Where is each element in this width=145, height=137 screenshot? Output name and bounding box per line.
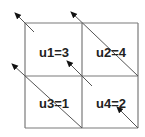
- cell-label-u3: u3=1: [39, 96, 69, 111]
- cell-label-u4: u4=2: [96, 96, 126, 111]
- cell-label-u2: u2=4: [96, 45, 127, 60]
- grid-diagram: u1=3u2=4u3=1u4=2: [0, 0, 145, 137]
- cell-labels: u1=3u2=4u3=1u4=2: [39, 45, 127, 111]
- arrow-into-u1-icon: [67, 61, 92, 86]
- arrow-through-u2-icon: [71, 12, 138, 76]
- cell-label-u1: u1=3: [39, 45, 69, 60]
